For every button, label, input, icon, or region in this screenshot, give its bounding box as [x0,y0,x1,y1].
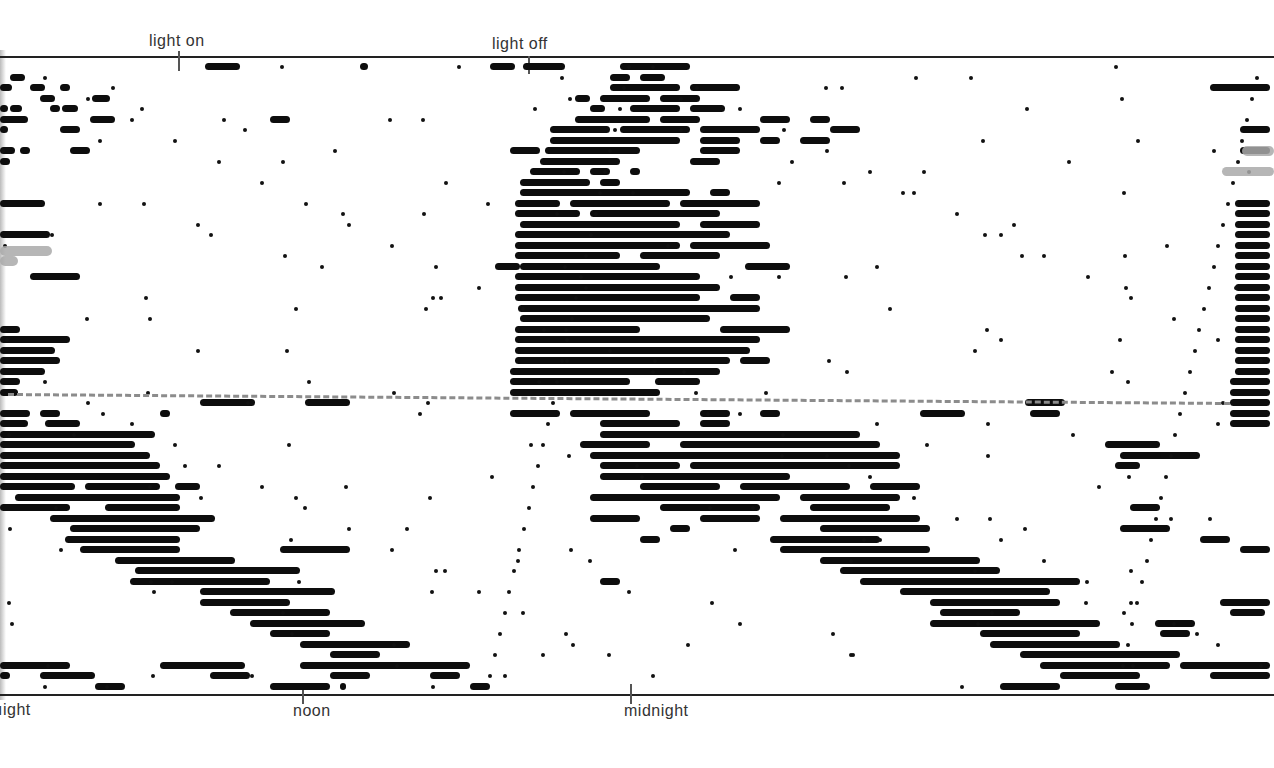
activity-bout [0,84,12,91]
activity-dot [985,328,989,332]
activity-dot [571,643,575,647]
activity-dot [849,559,853,563]
activity-bout [1130,504,1160,511]
activity-bout [740,357,770,364]
activity-dot [825,454,829,458]
activity-dot [570,317,574,321]
activity-bout [630,105,680,112]
activity-bout [0,347,55,354]
day-row [0,346,1274,356]
activity-dot [960,685,964,689]
activity-dot [999,233,1003,237]
activity-bout [1160,630,1190,637]
activity-dot [564,328,568,332]
activity-bout [510,410,560,417]
activity-dot [901,191,905,195]
activity-bout [700,410,730,417]
activity-bout [1240,546,1270,553]
activity-dot [594,212,598,216]
activity-bout [0,431,155,438]
activity-bout [515,347,750,354]
activity-bout [930,599,1060,606]
activity-bout [940,609,1020,616]
activity-dot [294,496,298,500]
activity-dot [782,128,786,132]
activity-dot [562,170,566,174]
activity-bout [640,483,720,490]
activity-dot [584,254,588,258]
activity-dot [1085,580,1089,584]
activity-bout [0,200,45,207]
activity-dot [542,328,546,332]
activity-dot [555,380,559,384]
activity-bout [630,168,640,175]
activity-bout [690,462,900,469]
day-row [0,545,1274,555]
activity-bout [1230,410,1270,417]
activity-dot [1126,380,1130,384]
activity-dot [1231,181,1235,185]
activity-dot [1207,286,1211,290]
activity-dot [851,653,855,657]
activity-bout [700,221,760,228]
activity-dot [209,233,213,237]
activity-dot [686,643,690,647]
day-row [0,241,1274,251]
activity-bout [1040,662,1170,669]
activity-dot [144,296,148,300]
activity-dot [250,674,254,678]
day-row [0,125,1274,135]
bottom-axis-line [0,694,1274,696]
activity-dot [1097,485,1101,489]
activity-dot [1172,317,1176,321]
activity-dot [1136,139,1140,143]
activity-bout [1230,378,1270,385]
activity-bout [0,336,70,343]
activity-bout [510,147,540,154]
activity-dot [98,202,102,206]
activity-dot [976,622,980,626]
activity-dot [695,86,699,90]
day-row [0,136,1274,146]
activity-bout [600,95,650,102]
activity-bout [0,368,45,375]
activity-bout [640,536,660,543]
activity-dot [426,401,430,405]
activity-dot [390,244,394,248]
activity-bout [700,147,740,154]
activity-dot [222,118,226,122]
activity-dot [170,580,174,584]
activity-dot [1127,475,1131,479]
activity-bout [160,662,245,669]
activity-bout [515,200,560,207]
activity-dot [922,170,926,174]
activity-bout [510,389,660,396]
activity-bout [205,63,240,70]
activity-dot [443,569,447,573]
activity-dot [827,359,831,363]
day-row [0,293,1274,303]
activity-dot [986,422,990,426]
day-row [0,325,1274,335]
activity-dot [1212,265,1216,269]
activity-dot [986,454,990,458]
activity-dot [43,685,47,689]
activity-dot [1122,191,1126,195]
day-row [0,419,1274,429]
activity-dot [608,149,612,153]
activity-dot [635,464,639,468]
activity-bout [515,231,730,238]
activity-dot [529,443,533,447]
day-row [0,650,1274,660]
activity-bout [760,137,780,144]
activity-dot [1020,254,1024,258]
activity-dot [704,317,708,321]
activity-dot [1245,118,1249,122]
activity-bout [520,315,710,322]
activity-bout [0,504,70,511]
activity-bout [518,305,760,312]
activity-bout [0,231,50,238]
activity-bout [360,63,368,70]
activity-dot [1110,370,1114,374]
activity-bout [515,294,700,301]
